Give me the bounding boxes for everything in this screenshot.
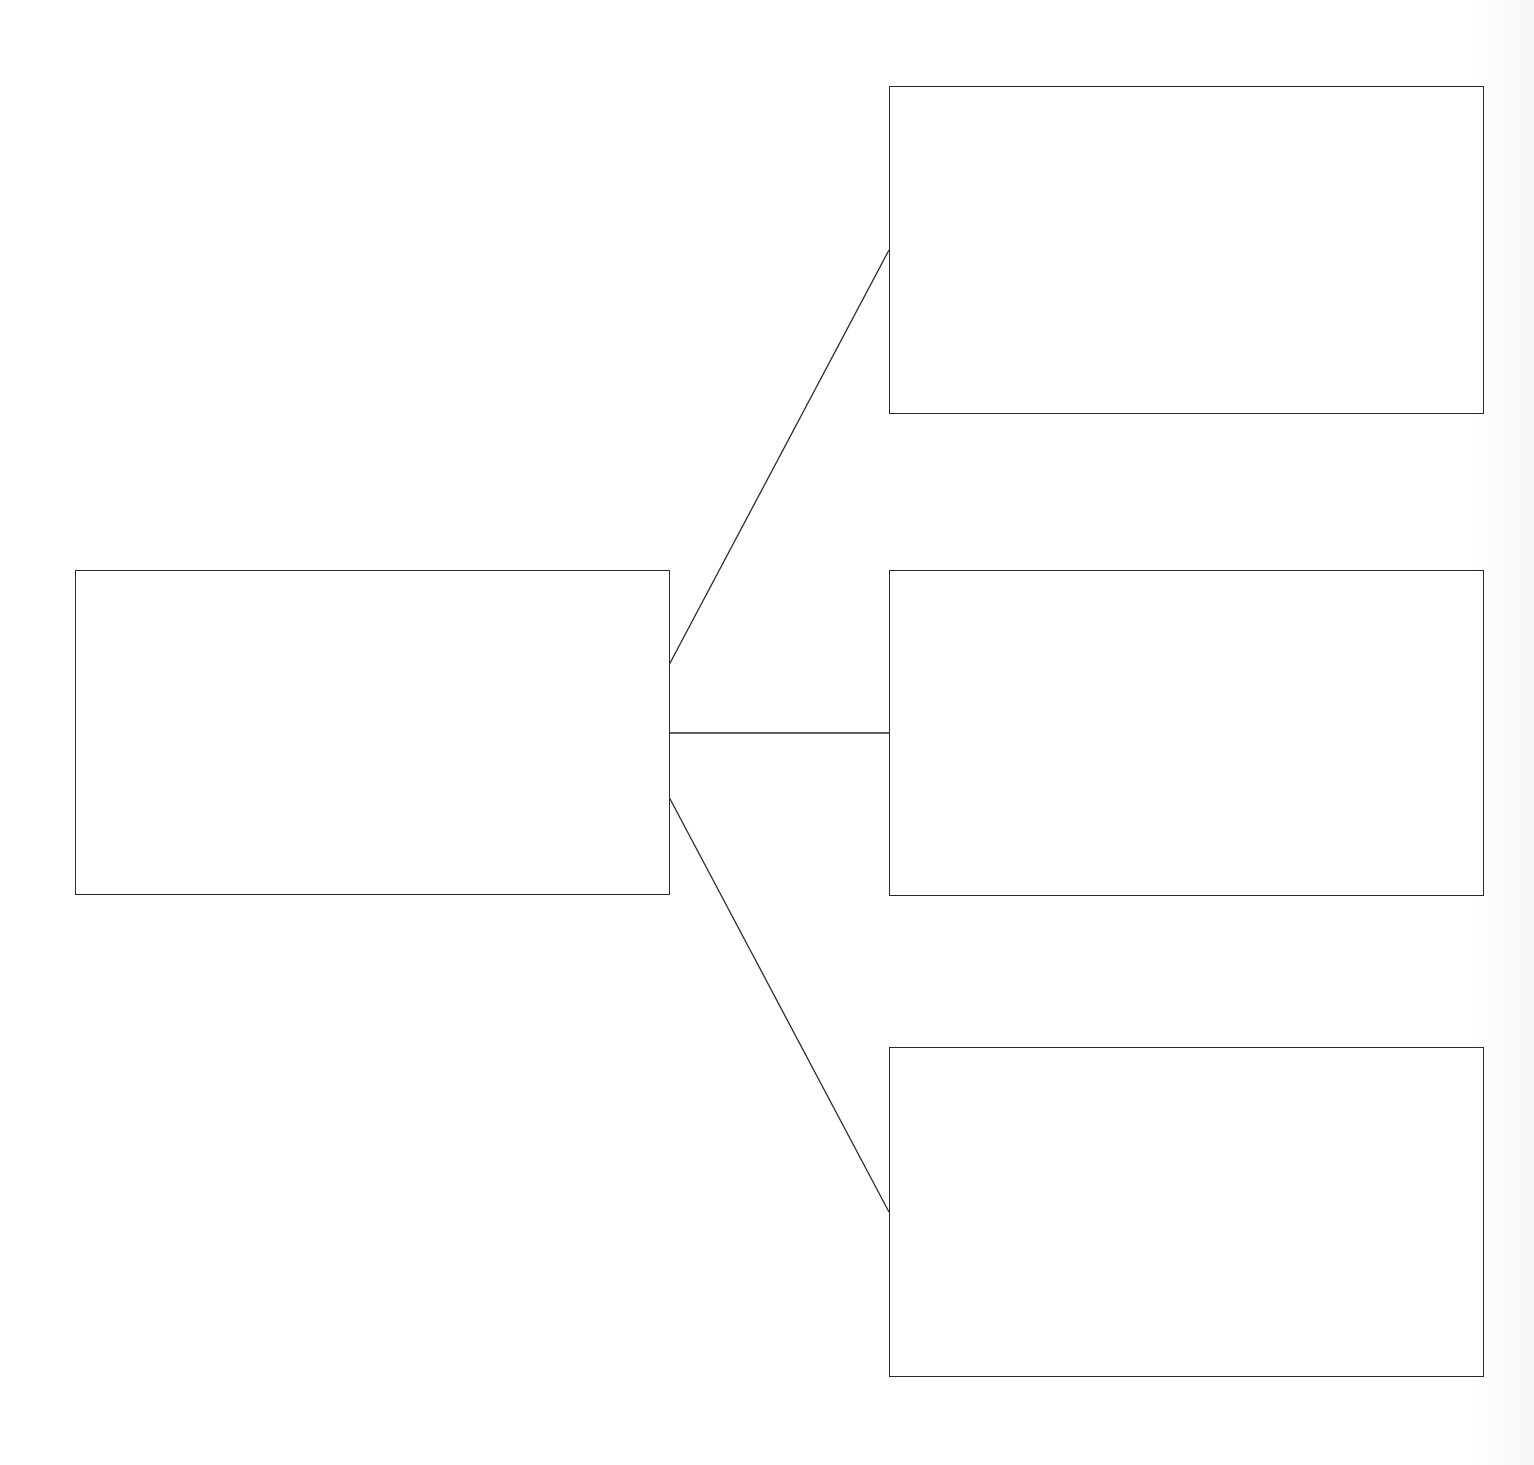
child-node-box-2 — [889, 570, 1484, 896]
child-node-label-1 — [1179, 242, 1195, 258]
child-node-box-1 — [889, 86, 1484, 414]
child-node-label-2 — [1179, 725, 1195, 741]
child-node-label-3 — [1179, 1204, 1195, 1220]
connector-root-to-child-1 — [669, 250, 889, 665]
child-node-box-3 — [889, 1047, 1484, 1377]
root-node-box — [75, 570, 670, 895]
connector-root-to-child-3 — [669, 797, 889, 1212]
diagram-canvas — [0, 0, 1534, 1465]
root-node-label — [365, 725, 381, 741]
